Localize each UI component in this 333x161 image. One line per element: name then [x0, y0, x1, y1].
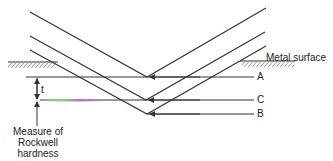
indenter-outline-c [30, 32, 265, 100]
measure-label: Measure of Rockwell hardness [10, 126, 66, 159]
metal-surface-label: Metal surface [266, 52, 326, 63]
highlight-band [40, 99, 105, 102]
label-a: A [257, 71, 264, 82]
label-c: C [257, 94, 264, 105]
measure-label-line3: hardness [10, 148, 66, 159]
measure-label-line2: Rockwell [10, 137, 66, 148]
indenter-outline-b [30, 46, 266, 114]
label-b: B [257, 108, 264, 119]
metal-surface-left [8, 62, 58, 68]
measure-label-line1: Measure of [10, 126, 66, 137]
label-t: t [41, 84, 44, 95]
